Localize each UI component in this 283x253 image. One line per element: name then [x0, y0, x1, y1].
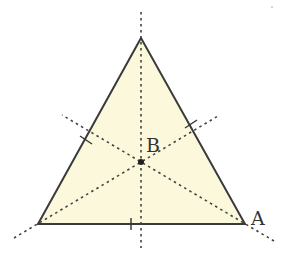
- label-a: A: [250, 207, 265, 229]
- triangle-diagram: B A: [0, 0, 283, 253]
- label-b: B: [146, 134, 160, 156]
- center-point-b: [138, 159, 144, 165]
- speck-mark: [271, 6, 273, 8]
- equilateral-triangle: [38, 38, 245, 224]
